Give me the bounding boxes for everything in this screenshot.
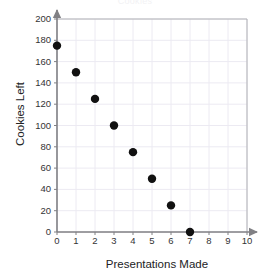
axis-tickmarks <box>54 19 247 235</box>
data-point <box>186 228 194 236</box>
data-point-series <box>53 41 194 236</box>
data-point <box>110 121 118 129</box>
axis-lines <box>57 10 257 232</box>
scatter-chart: Cookies Cookies Left Presentations Made … <box>0 0 264 279</box>
data-point <box>53 41 61 49</box>
data-point <box>91 95 99 103</box>
data-point <box>148 175 156 183</box>
plot-area <box>0 0 264 279</box>
data-point <box>167 201 175 209</box>
data-point <box>129 148 137 156</box>
data-point <box>72 68 80 76</box>
gridlines <box>57 19 247 232</box>
